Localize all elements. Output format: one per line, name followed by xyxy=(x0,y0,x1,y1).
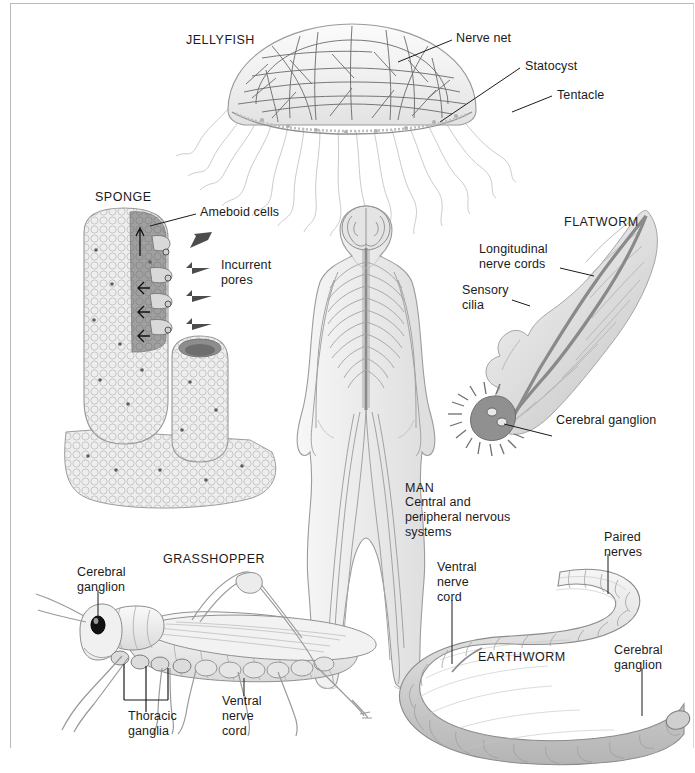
label-man-line2: peripheral nervous xyxy=(405,510,510,525)
label-man-line1: Central and xyxy=(405,495,471,510)
grasshopper-heading: GRASSHOPPER xyxy=(163,552,265,567)
label-sensory-line1: Sensory xyxy=(462,283,509,298)
label-man-line3: systems xyxy=(405,525,452,540)
flatworm-heading: FLATWORM xyxy=(564,215,639,230)
label-worm-ventral-line2: nerve xyxy=(437,575,469,590)
label-worm-cerebral-line1: Cerebral xyxy=(614,643,663,658)
illustration-layer xyxy=(0,0,695,773)
incurrent-arrows xyxy=(186,232,212,330)
sponge-illustration xyxy=(65,208,276,508)
label-worm-cerebral-line2: ganglion xyxy=(614,658,662,673)
figure-root: JELLYFISH Nerve net Statocyst Tentacle S… xyxy=(0,0,695,773)
label-worm-ventral-line3: cord xyxy=(437,590,462,605)
man-illustration xyxy=(297,206,435,689)
label-hopper-cerebral-line2: ganglion xyxy=(77,580,125,595)
label-thoracic-line2: ganglia xyxy=(128,724,169,739)
man-heading: MAN xyxy=(405,481,434,496)
earthworm-heading: EARTHWORM xyxy=(478,650,566,665)
label-tentacle: Tentacle xyxy=(557,88,604,103)
leader-sensory-cilia xyxy=(512,300,530,306)
leader-longitudinal xyxy=(560,268,594,276)
label-hopper-ventral-line3: cord xyxy=(222,724,247,739)
label-flatworm-cerebral-ganglion: Cerebral ganglion xyxy=(556,413,656,428)
label-nerve-net: Nerve net xyxy=(456,31,511,46)
leader-tentacle xyxy=(512,96,552,112)
label-longitudinal-line2: nerve cords xyxy=(479,257,545,272)
jellyfish-heading: JELLYFISH xyxy=(186,33,255,48)
label-ameboid-cells: Ameboid cells xyxy=(200,205,279,220)
label-longitudinal-line1: Longitudinal xyxy=(479,242,548,257)
label-hopper-ventral-line1: Ventral xyxy=(222,694,262,709)
label-paired-line2: nerves xyxy=(604,545,642,560)
label-incurrent-pores-line1: Incurrent xyxy=(221,258,271,273)
sponge-heading: SPONGE xyxy=(95,190,152,205)
label-incurrent-pores-line2: pores xyxy=(221,273,253,288)
label-statocyst: Statocyst xyxy=(525,59,577,74)
label-paired-line1: Paired xyxy=(604,530,641,545)
label-worm-ventral-line1: Ventral xyxy=(437,560,477,575)
label-hopper-cerebral-line1: Cerebral xyxy=(77,565,126,580)
label-hopper-ventral-line2: nerve xyxy=(222,709,254,724)
label-sensory-line2: cilia xyxy=(462,298,484,313)
label-thoracic-line1: Thoracic xyxy=(128,709,177,724)
